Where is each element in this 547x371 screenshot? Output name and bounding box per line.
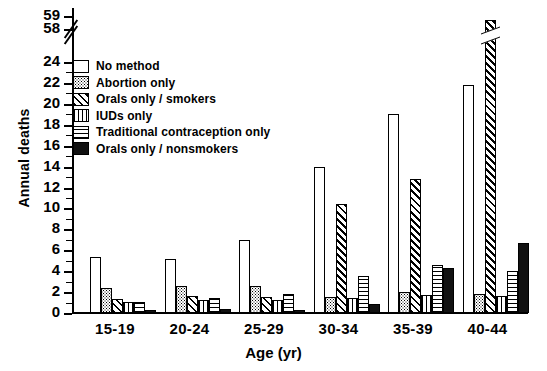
x-category-15-19: 15-19 xyxy=(82,320,148,337)
bar xyxy=(496,296,507,313)
bar xyxy=(399,292,410,313)
legend-item: No method xyxy=(73,58,270,75)
legend-item: Orals only / nonsmokers xyxy=(73,141,270,158)
x-axis-title: Age (yr) xyxy=(0,344,547,361)
bar xyxy=(369,304,380,313)
bar xyxy=(250,286,261,313)
bar xyxy=(347,298,358,313)
y-tick-14: 14 xyxy=(64,167,72,169)
bar xyxy=(145,310,156,313)
y-tick-label: 14 xyxy=(43,158,60,174)
bar xyxy=(410,179,421,313)
bar xyxy=(134,302,145,314)
legend-item: Traditional contraception only xyxy=(73,124,270,141)
legend-swatch-icon xyxy=(73,142,89,155)
legend-swatch-icon xyxy=(73,93,89,106)
bar xyxy=(272,300,283,313)
y-tick-4: 4 xyxy=(64,271,72,273)
legend-swatch-icon xyxy=(73,126,89,139)
legend-label: Traditional contraception only xyxy=(96,125,270,139)
bar-group xyxy=(388,8,454,313)
y-tick-16: 16 xyxy=(64,146,72,148)
legend-label: IUDs only xyxy=(96,109,152,123)
bar xyxy=(325,297,336,313)
legend-label: No method xyxy=(96,59,160,73)
bar xyxy=(261,297,272,313)
y-tick-label: 6 xyxy=(52,241,60,257)
y-tick-24: 24 xyxy=(64,62,72,64)
legend-label: Abortion only xyxy=(96,76,175,90)
x-category-20-24: 20-24 xyxy=(157,320,223,337)
y-tick-12: 12 xyxy=(64,188,72,190)
y-tick-label: 22 xyxy=(43,74,60,90)
y-tick-22: 22 xyxy=(64,83,72,85)
bar xyxy=(432,265,443,313)
legend-item: Orals only / smokers xyxy=(73,91,270,108)
y-tick-label: 8 xyxy=(52,220,60,236)
y-tick-0: 0 xyxy=(64,313,72,315)
bar xyxy=(421,295,432,313)
bar xyxy=(507,271,518,313)
y-tick-label: 2 xyxy=(52,283,60,299)
legend-label: Orals only / smokers xyxy=(96,92,216,106)
legend-item: Abortion only xyxy=(73,75,270,92)
x-category-25-29: 25-29 xyxy=(231,320,297,337)
bar xyxy=(283,294,294,313)
plot-area xyxy=(72,8,527,313)
bar xyxy=(294,310,305,313)
bar xyxy=(101,288,112,313)
y-tick-20: 20 xyxy=(64,104,72,106)
bar xyxy=(388,114,399,313)
legend-swatch-icon xyxy=(73,76,89,89)
bar xyxy=(336,204,347,313)
y-axis-title: Annual deaths xyxy=(16,88,32,228)
legend-label: Orals only / nonsmokers xyxy=(96,142,238,156)
bar-group xyxy=(239,8,305,313)
y-tick-label: 18 xyxy=(43,116,60,132)
bar-break-mark xyxy=(481,27,500,45)
y-tick-label: 4 xyxy=(52,262,60,278)
legend: No methodAbortion onlyOrals only / smoke… xyxy=(73,58,270,157)
y-tick-label: 58 xyxy=(43,20,60,36)
x-category-35-39: 35-39 xyxy=(380,320,446,337)
y-tick-6: 6 xyxy=(64,250,72,252)
y-tick-label: 12 xyxy=(43,179,60,195)
y-tick-label: 20 xyxy=(43,95,60,111)
x-category-30-34: 30-34 xyxy=(306,320,372,337)
bar xyxy=(176,286,187,313)
y-tick-10: 10 xyxy=(64,208,72,210)
bar xyxy=(443,268,454,313)
legend-swatch-icon xyxy=(73,109,89,122)
bar xyxy=(209,298,220,313)
bar xyxy=(474,294,485,313)
y-tick-2: 2 xyxy=(64,292,72,294)
bar xyxy=(90,257,101,313)
bar xyxy=(123,302,134,314)
y-tick-8: 8 xyxy=(64,229,72,231)
bar xyxy=(239,240,250,313)
bar-chart: Annual deaths 0246810121416182022245958 … xyxy=(0,0,547,371)
y-tick-label: 24 xyxy=(43,53,60,69)
bar-group xyxy=(314,8,380,313)
bar-group xyxy=(90,8,156,313)
bar xyxy=(187,296,198,313)
y-tick-label: 0 xyxy=(52,304,60,320)
bar xyxy=(314,167,325,313)
bar-group xyxy=(165,8,231,313)
bar xyxy=(112,299,123,313)
bar xyxy=(165,259,176,313)
bar xyxy=(485,20,496,313)
y-tick-59: 59 xyxy=(64,16,72,18)
bar xyxy=(198,300,209,313)
x-category-40-44: 40-44 xyxy=(455,320,521,337)
legend-swatch-icon xyxy=(73,60,89,73)
bar xyxy=(463,85,474,313)
y-tick-label: 16 xyxy=(43,137,60,153)
y-tick-label: 10 xyxy=(43,199,60,215)
y-tick-18: 18 xyxy=(64,125,72,127)
bar xyxy=(518,243,529,313)
bar xyxy=(358,276,369,313)
legend-item: IUDs only xyxy=(73,108,270,125)
bar-group xyxy=(463,8,529,313)
bar xyxy=(220,309,231,313)
